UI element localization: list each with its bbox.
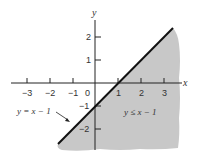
x-tick-label: 3	[162, 88, 167, 98]
x-tick-label: −2	[45, 88, 55, 98]
region-inequality-label: y ≤ x − 1	[123, 107, 157, 117]
x-tick-label: −3	[22, 88, 32, 98]
x-tick-label: 1	[116, 88, 121, 98]
x-tick-label: −1	[68, 88, 78, 98]
origin-label: 0	[85, 88, 90, 98]
y-tick-label: −2	[79, 124, 89, 134]
y-tick-label: −1	[79, 101, 89, 111]
inequality-graph: −3 −2 −1 0 1 2 3 2 1 −1 −2 x y y = x − 1…	[0, 0, 197, 161]
x-axis-label: x	[182, 77, 188, 88]
x-tick-label: 2	[139, 88, 144, 98]
line-equation-label: y = x − 1	[16, 106, 51, 116]
y-axis-label: y	[91, 7, 97, 18]
y-tick-label: 2	[86, 32, 91, 42]
annotation-arrow	[56, 112, 68, 120]
y-tick-label: 1	[86, 55, 91, 65]
